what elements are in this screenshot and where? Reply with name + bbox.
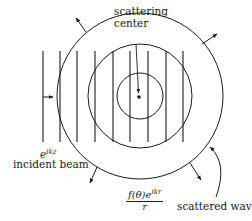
- radial-arrow-lower-right: [190, 163, 201, 180]
- radial-arrow-upper-right: [202, 34, 217, 44]
- scattering-center-label: scattering center: [114, 5, 168, 29]
- incident-beam-label: incident beam: [13, 158, 89, 170]
- scattered-formula-denominator: r: [126, 202, 163, 213]
- radial-arrow-lower-left: [90, 167, 97, 183]
- scattered-wave-formula: f(θ)eikr r: [126, 186, 163, 213]
- scattered-formula-exponent: ikr: [151, 188, 161, 196]
- scattering-label-line1: scattering: [114, 5, 168, 17]
- scattered-wave-label: scattered wave: [177, 200, 252, 212]
- incident-wave-exponent: ikz: [46, 148, 56, 156]
- center-label-line2: center: [114, 17, 168, 29]
- radial-arrow-upper-left: [76, 18, 86, 32]
- scattering-center-pointer: [136, 44, 139, 93]
- scattered-wave-pointer: [210, 147, 221, 197]
- scattered-formula-base: f(θ)e: [128, 189, 151, 200]
- radial-arrows: [76, 18, 217, 183]
- scattering-center-dot: [137, 95, 141, 99]
